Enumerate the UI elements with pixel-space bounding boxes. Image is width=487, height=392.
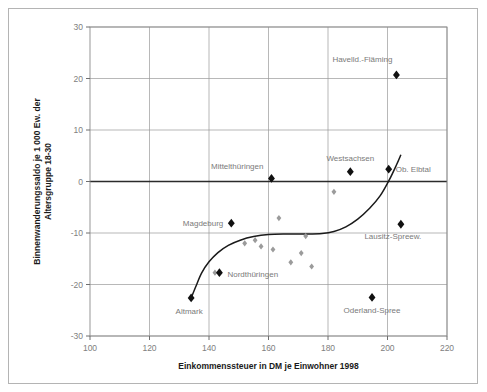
y-tick-label: 20 <box>74 74 84 84</box>
y-tick-label: 10 <box>74 125 84 135</box>
data-point-ob-elbtal <box>385 165 392 174</box>
point-label: Mittelthüringen <box>211 162 263 171</box>
x-axis-title: Einkommenssteuer in DM je Einwohner 1998 <box>178 361 359 371</box>
x-tick-label: 200 <box>380 343 394 353</box>
x-tick-label: 140 <box>202 343 216 353</box>
y-tick-label: 30 <box>74 22 84 32</box>
data-point-westsachsen <box>347 167 354 176</box>
labelled-data-points <box>188 70 405 302</box>
point-label: Westsachsen <box>326 154 374 163</box>
plot-area-wrapper: 1001201401601802002203020100-10-20-30 Ha… <box>0 0 487 392</box>
y-axis-title: Binnenwanderungssaldo je 1 000 Ew. derAl… <box>32 98 53 265</box>
scatter-chart: 1001201401601802002203020100-10-20-30 Ha… <box>0 0 487 392</box>
chart-figure: 1001201401601802002203020100-10-20-30 Ha… <box>0 0 487 392</box>
point-label: Havelld.-Fläming <box>332 55 392 64</box>
x-tick-label: 100 <box>83 343 97 353</box>
unlabelled-data-points <box>213 189 337 276</box>
x-tick-label: 180 <box>321 343 335 353</box>
data-point-unlabelled <box>288 259 293 265</box>
point-label: Magdeburg <box>183 219 223 228</box>
data-point-altmark <box>188 293 195 302</box>
data-point-nordth-ringen <box>216 268 223 277</box>
y-tick-label: -30 <box>71 331 84 341</box>
data-point-havelld-fl-ming <box>393 70 400 79</box>
data-point-labels: Havelld.-FlämingOb. ElbtalWestsachsenMit… <box>176 55 431 316</box>
point-label: Altmark <box>176 307 204 316</box>
data-point-oderland-spree <box>369 293 376 302</box>
y-tick-label: 0 <box>78 177 83 187</box>
data-point-unlabelled <box>271 246 276 252</box>
point-label: Oderland-Spree <box>344 306 401 315</box>
y-tick-label: -20 <box>71 280 84 290</box>
data-point-unlabelled <box>332 189 337 195</box>
point-label: Nordthüringen <box>227 270 278 279</box>
data-point-unlabelled <box>309 263 314 269</box>
x-tick-label: 160 <box>261 343 275 353</box>
data-point-lausitz-spreew <box>397 220 404 229</box>
data-point-unlabelled <box>276 215 281 221</box>
y-tick-label: -10 <box>71 228 84 238</box>
data-point-unlabelled <box>259 243 264 249</box>
data-point-unlabelled <box>242 240 247 246</box>
data-point-unlabelled <box>299 250 304 256</box>
data-point-magdeburg <box>228 219 235 228</box>
data-point-unlabelled <box>253 237 258 243</box>
x-tick-label: 120 <box>142 343 156 353</box>
point-label: Lausitz-Spreew. <box>364 232 421 241</box>
point-label: Ob. Elbtal <box>396 165 431 174</box>
x-tick-label: 220 <box>440 343 454 353</box>
